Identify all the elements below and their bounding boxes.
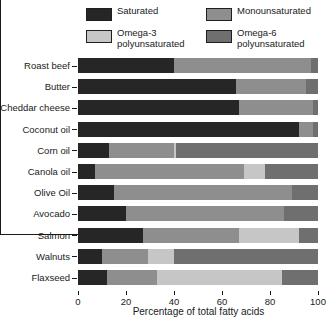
bar-segment (176, 143, 318, 158)
bar-segment (313, 122, 318, 137)
plot-area (78, 57, 318, 290)
bar-segment (78, 100, 239, 115)
x-axis-tick (270, 291, 271, 295)
y-axis-labels: Roast beefButterCheddar cheeseCoconut oi… (0, 57, 74, 290)
bar-segment (244, 164, 266, 179)
bar-row (78, 228, 318, 243)
x-axis-title: Percentage of total fatty acids (78, 306, 319, 317)
y-axis-tick (72, 150, 77, 151)
y-axis-tick (72, 66, 77, 67)
y-axis-tick (72, 129, 77, 130)
bar-segment (78, 270, 107, 285)
bar-segment (102, 249, 148, 264)
legend-swatch-monounsaturated-icon (206, 8, 232, 21)
y-axis-tick (72, 235, 77, 236)
x-axis-tick (78, 291, 79, 295)
bar-segment (143, 228, 239, 243)
y-axis-tick (72, 108, 77, 109)
bar-segment (174, 58, 311, 73)
y-axis-label: Olive Oil (34, 187, 70, 198)
x-axis-tick (222, 291, 223, 295)
y-axis-tick (72, 193, 77, 194)
bar-segment (306, 79, 318, 94)
bar-segment (157, 270, 282, 285)
bar-segment (292, 185, 318, 200)
bar-row (78, 185, 318, 200)
legend-item-saturated: Saturated (86, 6, 206, 28)
legend-item-omega3: Omega-3 polyunsaturated (86, 28, 206, 50)
y-axis-label: Flaxseed (31, 272, 70, 283)
bar-segment (313, 100, 318, 115)
bar-row (78, 249, 318, 264)
bar-segment (78, 185, 114, 200)
y-axis-label: Avocado (33, 208, 70, 219)
bar-segment (78, 206, 126, 221)
y-axis-label: Walnuts (36, 251, 70, 262)
bar-row (78, 79, 318, 94)
bar-segment (311, 58, 318, 73)
legend: Saturated Monounsaturated Omega-3 polyun… (86, 6, 326, 50)
y-axis-label: Roast beef (24, 60, 70, 71)
legend-item-omega6: Omega-6 polyunsaturated (206, 28, 326, 50)
bar-segment (78, 249, 102, 264)
y-axis-label: Butter (45, 81, 70, 92)
y-axis-label: Cheddar cheese (0, 102, 70, 113)
bar-segment (284, 206, 318, 221)
y-axis-tick (72, 214, 77, 215)
bar-segment (126, 206, 284, 221)
bar-row (78, 270, 318, 285)
legend-item-monounsaturated: Monounsaturated (206, 6, 326, 28)
bar-row (78, 206, 318, 221)
legend-label-monounsaturated: Monounsaturated (237, 6, 311, 17)
bar-segment (78, 228, 143, 243)
bar-segment (236, 79, 306, 94)
x-axis-tick (318, 291, 319, 295)
legend-row: Saturated Monounsaturated (86, 6, 326, 28)
bar-segment (282, 270, 318, 285)
bar-row (78, 58, 318, 73)
bar-segment (78, 164, 95, 179)
bar-segment (239, 228, 299, 243)
bar-row (78, 122, 318, 137)
legend-row: Omega-3 polyunsaturated Omega-6 polyunsa… (86, 28, 326, 50)
y-axis-tick (72, 278, 77, 279)
y-axis-label: Coconut oil (22, 124, 70, 135)
bar-segment (78, 143, 109, 158)
bar-segment (299, 122, 313, 137)
bar-row (78, 100, 318, 115)
bar-segment (78, 58, 174, 73)
y-axis-tick (72, 256, 77, 257)
bar-segment (239, 100, 313, 115)
legend-label-saturated: Saturated (117, 6, 158, 17)
y-axis-tick (72, 87, 77, 88)
bar-segment (174, 249, 318, 264)
x-axis-tick (126, 291, 127, 295)
bar-segment (299, 228, 318, 243)
bar-segment (78, 122, 299, 137)
legend-label-omega3: Omega-3 polyunsaturated (117, 28, 185, 49)
bar-segment (148, 249, 174, 264)
legend-swatch-omega3-icon (86, 30, 112, 43)
y-axis-label: Salmon (38, 230, 70, 241)
x-axis-tick (174, 291, 175, 295)
y-axis-label: Corn oil (37, 145, 70, 156)
bar-segment (109, 143, 174, 158)
y-axis-tick (72, 172, 77, 173)
stacked-bar-chart: Saturated Monounsaturated Omega-3 polyun… (0, 0, 332, 326)
bar-segment (265, 164, 318, 179)
y-axis-label: Canola oil (28, 166, 70, 177)
legend-swatch-omega6-icon (206, 30, 232, 43)
bar-segment (114, 185, 292, 200)
bar-row (78, 143, 318, 158)
bar-segment (107, 270, 157, 285)
legend-swatch-saturated-icon (86, 8, 112, 21)
bar-segment (95, 164, 244, 179)
bar-segment (78, 79, 236, 94)
bar-row (78, 164, 318, 179)
legend-label-omega6: Omega-6 polyunsaturated (237, 28, 305, 49)
